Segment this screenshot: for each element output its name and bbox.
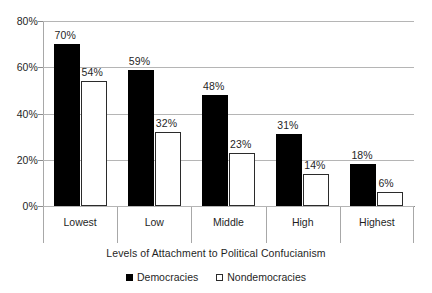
bar-high-democracies — [276, 134, 302, 206]
bar-value-label: 31% — [277, 119, 298, 131]
gridline — [43, 206, 414, 207]
category-separator — [117, 206, 118, 243]
category-separator — [266, 206, 267, 243]
category-label-middle: Middle — [213, 216, 244, 228]
bar-value-label: 54% — [82, 66, 103, 78]
category-label-high: High — [292, 216, 314, 228]
legend-swatch-nondemocracies — [216, 274, 223, 281]
y-tick-label: 60% — [17, 61, 38, 73]
legend-label-democracies: Democracies — [137, 271, 198, 283]
category-label-low: Low — [145, 216, 164, 228]
bar-highest-democracies — [350, 164, 376, 206]
bar-highest-nondemocracies — [377, 192, 403, 206]
bar-lowest-democracies — [54, 44, 80, 206]
bar-value-label: 23% — [230, 138, 251, 150]
bar-high-nondemocracies — [303, 174, 329, 206]
chart-legend: Democracies Nondemocracies — [0, 271, 432, 283]
category-label-lowest: Lowest — [63, 216, 96, 228]
bar-value-label: 32% — [156, 117, 177, 129]
legend-item-nondemocracies: Nondemocracies — [216, 271, 306, 283]
legend-swatch-democracies — [126, 274, 133, 281]
legend-label-nondemocracies: Nondemocracies — [227, 271, 306, 283]
x-axis-title: Levels of Attachment to Political Confuc… — [0, 247, 432, 259]
y-tick-mark — [38, 160, 43, 161]
bar-lowest-nondemocracies — [81, 81, 107, 206]
bar-low-democracies — [128, 70, 154, 206]
category-label-highest: Highest — [359, 216, 395, 228]
category-separator — [191, 206, 192, 243]
y-tick-label: 20% — [17, 154, 38, 166]
y-tick-label: 80% — [17, 15, 38, 27]
legend-item-democracies: Democracies — [126, 271, 198, 283]
bar-value-label: 59% — [129, 55, 150, 67]
category-band: LowestLowMiddleHighHighest — [43, 206, 414, 243]
y-tick-mark — [38, 206, 43, 207]
bar-value-label: 48% — [203, 80, 224, 92]
bar-chart: LowestLowMiddleHighHighest 70%54%59%32%4… — [0, 0, 432, 293]
category-separator — [340, 206, 341, 243]
y-tick-mark — [38, 21, 43, 22]
gridline — [43, 21, 414, 22]
bar-value-label: 18% — [351, 149, 372, 161]
bar-value-label: 14% — [304, 159, 325, 171]
bar-value-label: 70% — [55, 29, 76, 41]
y-tick-mark — [38, 114, 43, 115]
y-tick-mark — [38, 67, 43, 68]
bar-middle-nondemocracies — [229, 153, 255, 206]
bar-middle-democracies — [202, 95, 228, 206]
bar-low-nondemocracies — [155, 132, 181, 206]
y-tick-label: 0% — [23, 200, 38, 212]
plot-area: 70%54%59%32%48%23%31%14%18%6% — [43, 21, 414, 206]
bar-value-label: 6% — [378, 177, 393, 189]
y-tick-label: 40% — [17, 108, 38, 120]
